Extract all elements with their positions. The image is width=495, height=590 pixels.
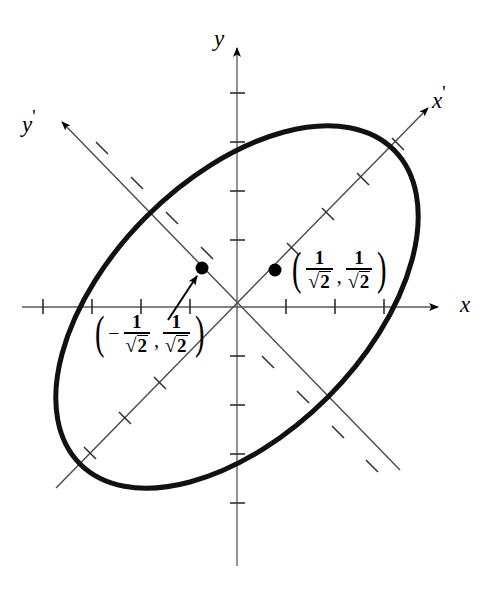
y-prime-axis: [62, 122, 400, 472]
sqrt-icon: √: [308, 270, 319, 292]
x-prime-axis-line: [56, 108, 428, 488]
left-paren-positive: (: [292, 251, 302, 287]
radicand-x-positive: 2: [319, 271, 331, 293]
point-label-positive: ( 1 √2 , 1 √2 ): [289, 248, 390, 293]
right-paren-positive: ): [377, 251, 387, 287]
coordinate-pair-negative: ( − 1 √2 , 1 √2 ): [92, 312, 207, 357]
fraction-x-positive: 1 √2: [304, 248, 334, 293]
coordinate-pair-positive: ( 1 √2 , 1 √2 ): [289, 248, 390, 293]
data-point-positive[interactable]: [269, 264, 282, 277]
y-prime-axis-label-text: y: [22, 112, 32, 137]
point-label-negative: ( − 1 √2 , 1 √2 ): [92, 312, 207, 357]
fraction-y-positive: 1 √2: [344, 248, 374, 293]
numerator-x-negative: 1: [129, 312, 145, 332]
denominator-x-negative: √2: [124, 334, 150, 357]
radicand-x-negative: 2: [137, 335, 149, 357]
x-prime-axis-label: x': [432, 82, 445, 114]
numerator-y-negative: 1: [169, 312, 185, 332]
numerator-x-positive: 1: [312, 248, 328, 268]
y-prime-mark: ': [32, 106, 34, 127]
comma-positive: ,: [335, 266, 344, 286]
x-prime-mark: ': [442, 82, 444, 103]
left-paren-negative: (: [95, 315, 105, 351]
x-prime-axis: [56, 108, 428, 488]
y-prime-axis-label: y': [22, 106, 35, 138]
denominator-x-positive: √2: [306, 270, 332, 293]
right-paren-negative: ): [194, 315, 204, 351]
sqrt-icon: √: [126, 334, 137, 356]
fraction-y-negative: 1 √2: [161, 312, 191, 357]
x-axis-label-text: x: [460, 292, 470, 317]
comma-negative: ,: [152, 330, 161, 350]
y-axis-label: y: [214, 26, 224, 52]
data-point-negative[interactable]: [196, 262, 209, 275]
denominator-y-negative: √2: [163, 334, 189, 357]
diagram-svg: [0, 0, 495, 590]
x-axis-label: x: [460, 292, 470, 318]
minus-sign-negative: −: [107, 323, 121, 343]
sqrt-icon: √: [165, 334, 176, 356]
denominator-y-positive: √2: [346, 270, 372, 293]
sqrt-icon: √: [348, 270, 359, 292]
y-axis-label-text: y: [214, 26, 224, 51]
y-prime-axis-line: [62, 122, 400, 470]
radicand-y-positive: 2: [359, 271, 371, 293]
figure-canvas: y x x' y' ( 1 √2 , 1 √2 ) (: [0, 0, 495, 590]
radicand-y-negative: 2: [176, 335, 188, 357]
fraction-x-negative: 1 √2: [122, 312, 152, 357]
numerator-y-positive: 1: [351, 248, 367, 268]
x-prime-axis-label-text: x: [432, 88, 442, 113]
